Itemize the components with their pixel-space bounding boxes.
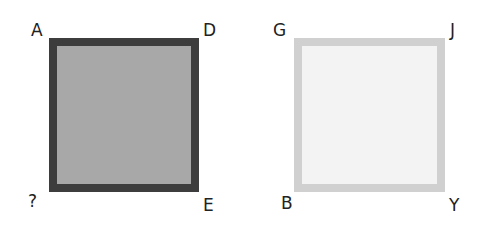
right-square bbox=[294, 38, 445, 192]
left-square bbox=[49, 38, 199, 192]
label-b: B bbox=[281, 195, 293, 212]
label-j: J bbox=[450, 22, 455, 39]
label-g: G bbox=[273, 22, 286, 39]
label-question: ? bbox=[28, 193, 37, 210]
label-d: D bbox=[203, 22, 216, 39]
label-a: A bbox=[31, 22, 43, 39]
label-y: Y bbox=[449, 197, 459, 214]
label-e: E bbox=[203, 197, 214, 214]
